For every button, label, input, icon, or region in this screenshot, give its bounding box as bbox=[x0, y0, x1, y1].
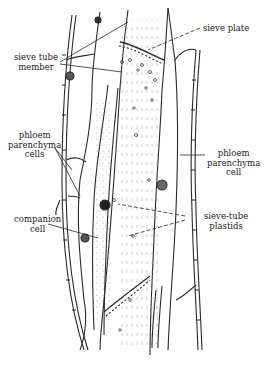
label-sieve-tube-member: sieve tube member bbox=[14, 53, 58, 72]
parenchyma-cells-right bbox=[168, 8, 202, 350]
label-line: cells bbox=[8, 150, 61, 160]
label-line: cell bbox=[14, 225, 61, 235]
label-phloem-parenchyma-cell: phloem parenchyma cell bbox=[207, 149, 260, 178]
label-companion-cell: companion cell bbox=[14, 215, 61, 234]
label-phloem-parenchyma-cells: phloem parenchyma cells bbox=[8, 131, 61, 160]
label-sieve-tube-plastids: sieve-tube plastids bbox=[204, 212, 248, 231]
label-line: plastids bbox=[204, 222, 248, 232]
label-line: cell bbox=[207, 168, 260, 178]
label-line: member bbox=[14, 63, 58, 73]
label-sieve-plate: sieve plate bbox=[203, 24, 249, 34]
